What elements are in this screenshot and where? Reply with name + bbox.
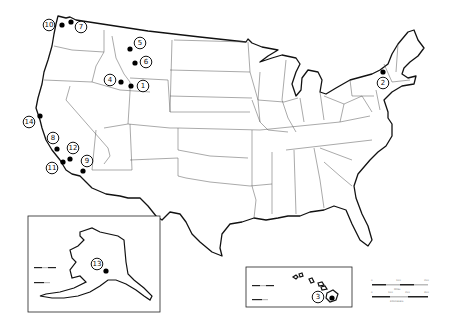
marker-label: 8 [51,134,55,142]
marker-label: 6 [144,58,149,66]
marker-label: 13 [93,260,102,268]
site-marker-11[interactable]: 11 [46,159,65,173]
marker-dot-icon[interactable] [67,156,72,161]
us-map: 0 100 200 Miles 0 100 200 300 Kilometers… [0,0,459,327]
scale-km-0: 0 [371,291,373,294]
marker-dot-icon[interactable] [54,146,59,151]
marker-label: 11 [48,164,57,172]
scale-miles-0: 0 [371,279,373,282]
hawaii-inset [246,267,352,307]
scale-miles-200: 200 [424,279,429,282]
marker-dot-icon[interactable] [329,295,334,300]
marker-label: 2 [381,79,385,87]
marker-dot-icon[interactable] [37,113,42,118]
marker-dot-icon[interactable] [103,268,108,273]
marker-dot-icon[interactable] [59,22,64,27]
marker-label: 12 [69,144,78,152]
marker-dot-icon[interactable] [380,69,385,74]
marker-label: 3 [316,293,320,301]
marker-label: 1 [141,82,145,90]
marker-label: 9 [85,157,89,165]
scale-km-300: 300 [424,291,429,294]
marker-label: 14 [25,118,34,126]
scale-km-100: 100 [388,291,393,294]
marker-dot-icon[interactable] [127,46,132,51]
marker-label: 7 [79,23,83,31]
marker-dot-icon[interactable] [132,60,137,65]
hawaii-inset-frame [246,267,352,307]
marker-dot-icon[interactable] [68,19,73,24]
scale-km-unit: Kilometers [390,300,404,303]
scale-miles-100: 100 [396,279,401,282]
marker-dot-icon[interactable] [118,79,123,84]
marker-dot-icon[interactable] [60,159,65,164]
marker-dot-icon[interactable] [80,168,85,173]
marker-label: 10 [45,21,54,29]
marker-label: 4 [108,76,113,84]
scale-km-200: 200 [405,291,410,294]
marker-dot-icon[interactable] [128,83,133,88]
main-scale-bar: 0 100 200 Miles 0 100 200 300 Kilometers [371,279,429,303]
scale-miles-unit: Miles [394,288,401,291]
marker-label: 5 [138,39,142,47]
